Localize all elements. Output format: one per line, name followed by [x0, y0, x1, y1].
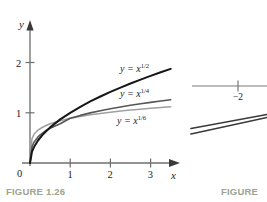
y-axis-label: y [18, 18, 24, 30]
x-tick-label-1: 1 [67, 169, 72, 180]
y-tick-label-2: 2 [16, 58, 21, 69]
curve-label-exponent-2: 1/4 [141, 87, 150, 94]
curve-label-text-1: y = x [119, 63, 141, 74]
y-axis-arrowhead [26, 20, 33, 31]
figure-1-26-caption: FIGURE 1.26 [6, 186, 65, 197]
x-axis-arrowhead [169, 159, 180, 167]
curve-label-x-pow-1-4: y = x1/4 [119, 87, 150, 99]
figure-right-partial: −2 FIGURE [190, 0, 267, 202]
curve-x-pow-1-2 [30, 69, 171, 163]
figure-1-26-plot: y x 0 2 1 1 2 3 y = x1/2 y = x1/4 y = x1… [0, 0, 200, 185]
curve-label-x-pow-1-2: y = x1/2 [119, 62, 149, 74]
figure-page: y x 0 2 1 1 2 3 y = x1/2 y = x1/4 y = x1… [0, 0, 267, 202]
curve-label-x-pow-1-6: y = x1/6 [116, 114, 147, 126]
figure-right-plot: −2 [190, 0, 267, 185]
curve-label-text-2: y = x [119, 88, 141, 99]
figure-right-caption: FIGURE [221, 186, 258, 197]
curve-label-text-3: y = x [116, 115, 138, 126]
y-tick-label-1: 1 [16, 108, 21, 119]
x-axis-label: x [170, 169, 176, 181]
figure-1-26: y x 0 2 1 1 2 3 y = x1/2 y = x1/4 y = x1… [0, 0, 200, 202]
x-tick-label-3: 3 [148, 169, 153, 180]
x-tick-label-2: 2 [108, 169, 113, 180]
curve-x-pow-1-4 [30, 100, 171, 163]
right-tick-label-minus-2: −2 [233, 92, 243, 102]
curve-x-pow-1-6 [30, 107, 171, 163]
curve-label-exponent-1: 1/2 [141, 62, 149, 69]
curve-label-exponent-3: 1/6 [138, 114, 147, 121]
origin-label: 0 [17, 168, 22, 179]
